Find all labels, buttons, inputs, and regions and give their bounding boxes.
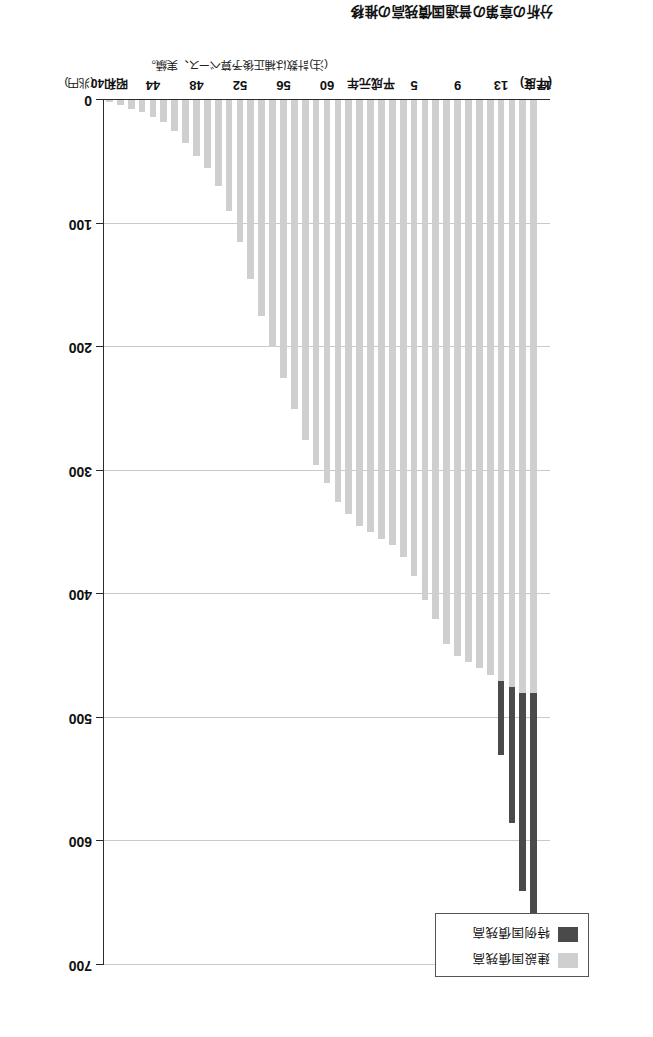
- bar-10: [465, 100, 472, 662]
- bar-segment-special: [509, 687, 516, 823]
- y-axis-tick-label: 500: [69, 711, 92, 727]
- bar-segment-construction: [204, 100, 211, 168]
- legend-swatch-special-icon: [558, 927, 578, 942]
- bar-segment-construction: [258, 100, 265, 316]
- bar-45: [160, 100, 167, 122]
- bar-segment-construction: [302, 100, 309, 440]
- bar-14: [509, 100, 516, 823]
- bar-segment-construction: [171, 100, 178, 131]
- bar-segment-construction: [411, 100, 418, 576]
- legend-label-special: 特例国債残高: [472, 924, 550, 943]
- chart-legend: 建設国債残高 特例国債残高: [435, 913, 589, 977]
- bar-44: [150, 100, 157, 117]
- plot-area: [104, 100, 550, 965]
- y-axis-tick-label: 200: [69, 340, 92, 356]
- bar-segment-construction: [291, 100, 298, 409]
- bar-47: [182, 100, 189, 143]
- bar-segment-construction: [530, 100, 537, 693]
- bar-4: [400, 100, 407, 557]
- bar-52: [237, 100, 244, 242]
- y-axis-tick-label: 700: [69, 958, 92, 974]
- bar-57: [291, 100, 298, 409]
- bar-segment-construction: [182, 100, 189, 143]
- bar-segment-construction: [215, 100, 222, 187]
- y-axis-unit: (兆円): [64, 76, 94, 92]
- bar-segment-construction: [519, 100, 526, 693]
- y-tick: [96, 593, 104, 594]
- bar-segment-construction: [313, 100, 320, 465]
- bar-segment-construction: [106, 100, 113, 102]
- bar-49: [204, 100, 211, 168]
- y-axis-line: [103, 100, 104, 965]
- bar-segment-construction: [454, 100, 461, 656]
- bar-50: [215, 100, 222, 187]
- chart-page: 分析の章第の普通国債残高の推移 (注)計数は補正後予算ベース、実績。 01002…: [0, 0, 653, 1037]
- bar-segment-construction: [422, 100, 429, 600]
- x-axis-tick-label: 60: [320, 78, 334, 93]
- x-axis-tick-label: 平成元年: [347, 76, 395, 93]
- bar-55: [269, 100, 276, 347]
- bar-segment-construction: [345, 100, 352, 514]
- bar-15: [519, 100, 526, 891]
- bar-segment-special: [530, 693, 537, 946]
- y-tick: [96, 223, 104, 224]
- x-axis-tick-label: 9: [454, 78, 461, 93]
- bar-6: [422, 100, 429, 600]
- x-axis-tick-label: 48: [189, 78, 203, 93]
- bar-segment-special: [519, 693, 526, 891]
- bar-segment-construction: [150, 100, 157, 117]
- bar-16: [530, 100, 537, 946]
- bar-11: [476, 100, 483, 668]
- bar-segment-construction: [128, 100, 135, 109]
- bar-segment-construction: [476, 100, 483, 668]
- bar-54: [258, 100, 265, 316]
- bar-58: [302, 100, 309, 440]
- bar-segment-construction: [335, 100, 342, 502]
- bar-segment-construction: [487, 100, 494, 675]
- y-axis-tick-label: 400: [69, 587, 92, 603]
- x-axis-tick-label: 昭和40: [91, 76, 128, 93]
- bar-segment-construction: [389, 100, 396, 545]
- x-axis-unit: (年度): [520, 76, 552, 93]
- bar-平成元年: [367, 100, 374, 533]
- bar-51: [226, 100, 233, 211]
- bar-segment-construction: [400, 100, 407, 557]
- bar-segment-construction: [139, 100, 146, 112]
- y-tick: [96, 964, 104, 965]
- gridline: [104, 717, 550, 718]
- y-axis-tick-label: 300: [69, 464, 92, 480]
- bar-60: [324, 100, 331, 483]
- y-tick: [96, 840, 104, 841]
- x-axis-tick-label: 52: [233, 78, 247, 93]
- bar-46: [171, 100, 178, 131]
- x-axis-tick-label: 5: [410, 78, 417, 93]
- bar-7: [432, 100, 439, 619]
- bar-8: [443, 100, 450, 644]
- y-tick: [96, 717, 104, 718]
- gridline: [104, 840, 550, 841]
- bar-48: [193, 100, 200, 156]
- bar-segment-construction: [443, 100, 450, 644]
- page-title: 分析の章第の普通国債残高の推移: [93, 3, 553, 23]
- bar-12: [487, 100, 494, 675]
- bar-segment-construction: [498, 100, 505, 681]
- bar-59: [313, 100, 320, 465]
- bar-62: [345, 100, 352, 514]
- x-axis-tick-label: 56: [276, 78, 290, 93]
- bar-42: [128, 100, 135, 109]
- bar-segment-construction: [193, 100, 200, 156]
- bar-13: [498, 100, 505, 755]
- x-axis-line: [103, 99, 550, 100]
- bar-5: [411, 100, 418, 576]
- y-tick: [96, 346, 104, 347]
- bar-昭和40: [106, 100, 113, 102]
- bar-segment-special: [498, 681, 505, 755]
- bar-segment-construction: [367, 100, 374, 533]
- bar-segment-construction: [280, 100, 287, 378]
- legend-label-construction: 建設国債残高: [472, 950, 550, 969]
- bar-53: [248, 100, 255, 279]
- legend-swatch-construction-icon: [558, 953, 578, 968]
- x-axis-tick-label: 44: [146, 78, 160, 93]
- bar-segment-construction: [117, 100, 124, 105]
- bar-61: [335, 100, 342, 502]
